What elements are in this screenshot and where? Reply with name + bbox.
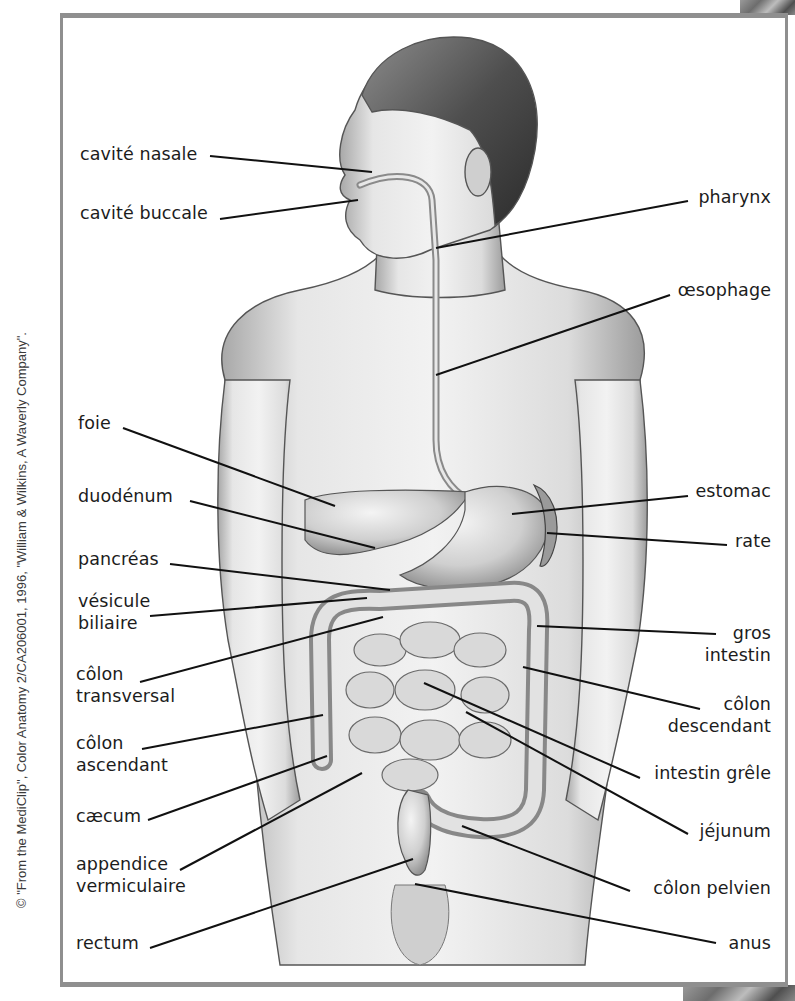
label-rectum: rectum bbox=[76, 932, 139, 954]
label-colon-pelvien: côlon pelvien bbox=[653, 877, 771, 899]
label-text: vermiculaire bbox=[76, 875, 186, 897]
label-text: gros bbox=[705, 622, 771, 644]
label-text: cavité buccale bbox=[80, 202, 208, 224]
label-text: rectum bbox=[76, 932, 139, 954]
label-text: côlon bbox=[668, 693, 771, 715]
label-cavite-nasale: cavité nasale bbox=[80, 143, 197, 165]
label-caecum: cæcum bbox=[76, 805, 141, 827]
label-text: pharynx bbox=[698, 186, 771, 208]
label-text: duodénum bbox=[78, 485, 173, 507]
label-pancreas: pancréas bbox=[78, 548, 159, 570]
label-text: transversal bbox=[76, 685, 175, 707]
label-text: jéjunum bbox=[699, 820, 771, 842]
label-intestin-grele: intestin grêle bbox=[654, 762, 771, 784]
label-text: vésicule bbox=[78, 590, 150, 612]
label-text: biliaire bbox=[78, 612, 150, 634]
label-text: intestin grêle bbox=[654, 762, 771, 784]
label-pharynx: pharynx bbox=[698, 186, 771, 208]
leader-line-cavite-buccale bbox=[220, 200, 358, 219]
label-estomac: estomac bbox=[695, 480, 771, 502]
label-gros-intestin: grosintestin bbox=[705, 622, 771, 666]
label-foie: foie bbox=[78, 412, 111, 434]
label-text: ascendant bbox=[76, 754, 168, 776]
label-text: côlon bbox=[76, 732, 168, 754]
label-text: intestin bbox=[705, 644, 771, 666]
label-text: estomac bbox=[695, 480, 771, 502]
label-cavite-buccale: cavité buccale bbox=[80, 202, 208, 224]
label-text: rate bbox=[735, 530, 771, 552]
label-text: cavité nasale bbox=[80, 143, 197, 165]
label-text: côlon pelvien bbox=[653, 877, 771, 899]
label-duodenum: duodénum bbox=[78, 485, 173, 507]
label-colon-ascendant: côlonascendant bbox=[76, 732, 168, 776]
label-text: cæcum bbox=[76, 805, 141, 827]
label-rate: rate bbox=[735, 530, 771, 552]
label-text: foie bbox=[78, 412, 111, 434]
label-text: œsophage bbox=[678, 279, 771, 301]
label-colon-transversal: côlontransversal bbox=[76, 663, 175, 707]
label-oesophage: œsophage bbox=[678, 279, 771, 301]
label-appendice-vermiculaire: appendicevermiculaire bbox=[76, 853, 186, 897]
label-text: pancréas bbox=[78, 548, 159, 570]
label-text: descendant bbox=[668, 715, 771, 737]
label-text: côlon bbox=[76, 663, 175, 685]
label-anus: anus bbox=[729, 932, 771, 954]
label-text: anus bbox=[729, 932, 771, 954]
label-vesicule-biliaire: vésiculebiliaire bbox=[78, 590, 150, 634]
label-colon-descendant: côlondescendant bbox=[668, 693, 771, 737]
label-jejunum: jéjunum bbox=[699, 820, 771, 842]
label-text: appendice bbox=[76, 853, 186, 875]
